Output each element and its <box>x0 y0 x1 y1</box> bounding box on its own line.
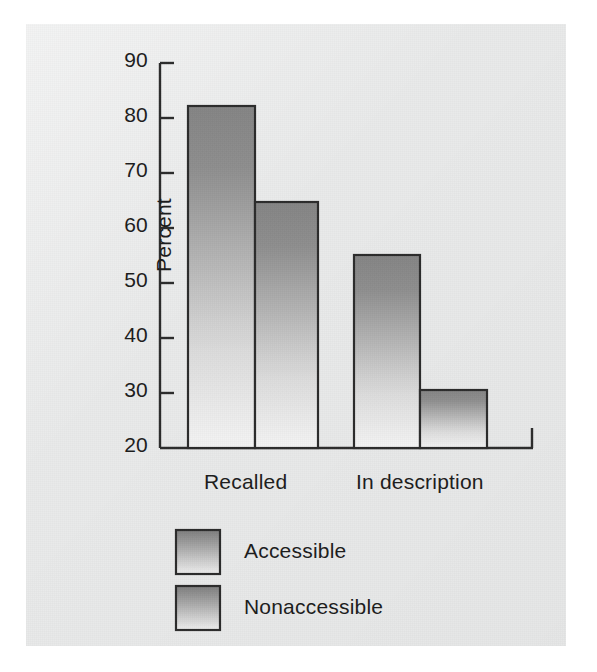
y-tick-label-60: 60 <box>100 213 148 237</box>
plot-area: Percent 90 80 70 60 50 40 30 20 Recalled… <box>26 24 566 646</box>
legend-swatch-nonaccessible[interactable] <box>176 586 220 630</box>
bar-indescription-accessible[interactable] <box>354 255 420 448</box>
bar-indescription-nonaccessible[interactable] <box>420 390 487 448</box>
bar-recalled-nonaccessible[interactable] <box>255 202 318 448</box>
bar-recalled-accessible[interactable] <box>188 106 255 448</box>
y-tick-label-40: 40 <box>100 323 148 347</box>
y-tick-label-20: 20 <box>100 433 148 457</box>
y-axis-title: Percent <box>152 198 176 272</box>
y-tick-label-50: 50 <box>100 268 148 292</box>
legend-swatch-accessible[interactable] <box>176 530 220 574</box>
x-category-label-recalled: Recalled <box>204 470 287 494</box>
y-tick-label-90: 90 <box>100 48 148 72</box>
legend-swatches <box>176 530 220 630</box>
y-axis-title-wrap: Percent <box>149 175 179 295</box>
legend-label-accessible: Accessible <box>244 539 346 563</box>
bars-group <box>188 106 487 448</box>
y-tick-label-80: 80 <box>100 103 148 127</box>
chart-panel: Percent 90 80 70 60 50 40 30 20 Recalled… <box>26 24 566 646</box>
x-category-label-in-description: In description <box>356 470 484 494</box>
chart-page: Percent 90 80 70 60 50 40 30 20 Recalled… <box>0 0 597 672</box>
y-tick-label-30: 30 <box>100 378 148 402</box>
y-tick-label-70: 70 <box>100 158 148 182</box>
legend-label-nonaccessible: Nonaccessible <box>244 595 383 619</box>
